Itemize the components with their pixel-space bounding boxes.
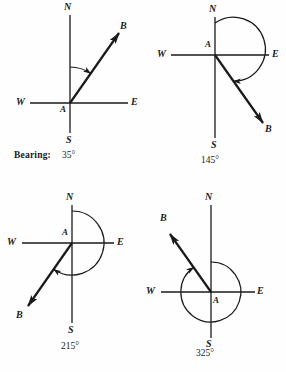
bearing-value-1: 35° <box>62 150 75 160</box>
label-ray-end-4: B <box>160 213 167 223</box>
bearing-panel-4: N S W E A B <box>143 186 286 346</box>
label-south-2: S <box>211 140 217 150</box>
label-east-4: E <box>257 286 264 296</box>
bearing-panel-2: N S W E A B <box>143 0 286 170</box>
bearing-arc-2 <box>215 17 265 81</box>
bearing-panel-3: N S W E A B <box>0 186 143 346</box>
label-east-1: E <box>131 97 138 107</box>
label-vertex-1: A <box>60 105 66 114</box>
label-vertex-3: A <box>62 228 68 237</box>
label-ray-end-2: B <box>265 124 272 134</box>
compass-rose-4 <box>143 186 286 346</box>
bearing-figure: N S W E A B Bearing: 35° N S W <box>0 0 286 372</box>
label-east-3: E <box>117 237 124 247</box>
label-ray-end-1: B <box>120 21 127 31</box>
label-north-1: N <box>64 2 71 12</box>
bearing-ray-4 <box>170 234 211 292</box>
label-west-1: W <box>16 97 25 107</box>
label-vertex-4: A <box>213 296 219 305</box>
label-west-2: W <box>157 49 166 59</box>
bearing-value-3: 215° <box>61 341 79 351</box>
label-west-3: W <box>7 237 16 247</box>
label-vertex-2: A <box>205 40 211 49</box>
bearing-value-4: 325° <box>196 348 214 358</box>
label-ray-end-3: B <box>16 310 23 320</box>
compass-rose-3 <box>0 186 143 346</box>
bearing-value-2: 145° <box>201 155 219 165</box>
label-north-4: N <box>205 192 212 202</box>
label-north-3: N <box>66 192 73 202</box>
bearing-caption-1: Bearing: <box>14 150 51 160</box>
bearing-arc-1 <box>70 67 91 74</box>
label-west-4: W <box>146 286 155 296</box>
label-south-3: S <box>68 325 74 335</box>
label-south-1: S <box>66 135 72 145</box>
label-east-2: E <box>272 49 279 59</box>
bearing-panel-1: N S W E A B <box>0 0 143 170</box>
bearing-ray-2 <box>215 55 263 123</box>
label-north-2: N <box>209 4 216 14</box>
